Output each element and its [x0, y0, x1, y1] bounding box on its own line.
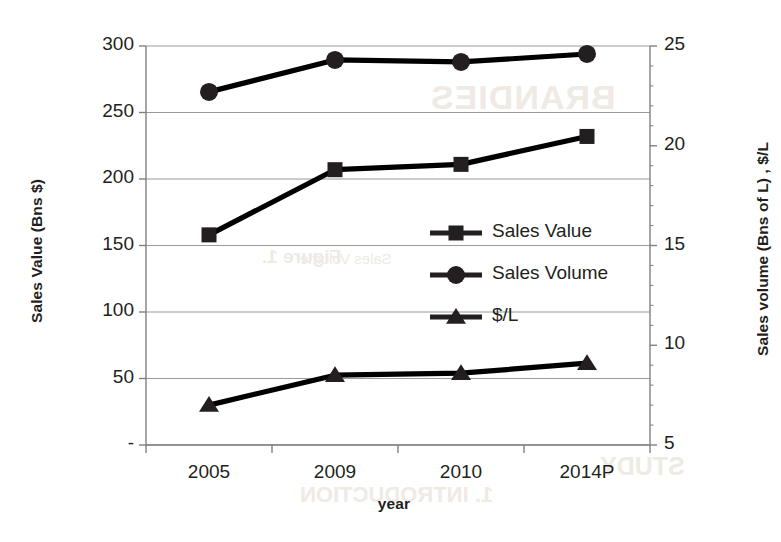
legend-label-triangle: $/L	[492, 304, 518, 326]
line-chart: -50100150200250300 510152025 20052009201…	[0, 0, 781, 542]
y-right-tick-label: 15	[664, 233, 724, 255]
legend-label-circle: Sales Volume	[492, 262, 608, 284]
chart-plot-area	[0, 0, 781, 542]
series-3	[199, 354, 597, 412]
marker-square	[580, 129, 595, 144]
y-axis-left-title: Sales Value (Bns $)	[28, 136, 46, 366]
y-left-tick-label: 200	[74, 166, 134, 188]
y-right-tick-label: 10	[664, 332, 724, 354]
y-left-tick-label: 50	[74, 366, 134, 388]
marker-circle	[447, 266, 465, 284]
y-right-tick-label: 5	[664, 432, 724, 454]
marker-square	[454, 157, 469, 172]
marker-square	[328, 162, 343, 177]
x-axis-title: year	[284, 495, 504, 513]
x-tick-label: 2005	[164, 461, 254, 483]
y-left-tick-label: 150	[74, 233, 134, 255]
y-right-tick-label: 20	[664, 133, 724, 155]
series-line	[209, 363, 587, 405]
y-axis-right-title: Sales volume (Bns of L) , $/L	[754, 124, 772, 374]
marker-circle	[326, 51, 344, 69]
y-left-tick-label: 250	[74, 100, 134, 122]
tick-marks	[139, 46, 657, 453]
legend-markers	[430, 226, 482, 324]
legend-label-square: Sales Value	[492, 220, 592, 242]
y-right-tick-label: 25	[664, 33, 724, 55]
x-tick-label: 2014P	[542, 461, 632, 483]
marker-circle	[452, 53, 470, 71]
y-left-tick-label: -	[74, 432, 134, 454]
marker-circle	[578, 45, 596, 63]
marker-square	[449, 226, 464, 241]
x-tick-label: 2009	[290, 461, 380, 483]
x-tick-label: 2010	[416, 461, 506, 483]
y-left-tick-label: 100	[74, 299, 134, 321]
marker-circle	[200, 83, 218, 101]
y-left-tick-label: 300	[74, 33, 134, 55]
series-line	[209, 54, 587, 92]
marker-square	[202, 227, 217, 242]
gridlines	[146, 46, 650, 445]
series-2	[200, 45, 596, 101]
